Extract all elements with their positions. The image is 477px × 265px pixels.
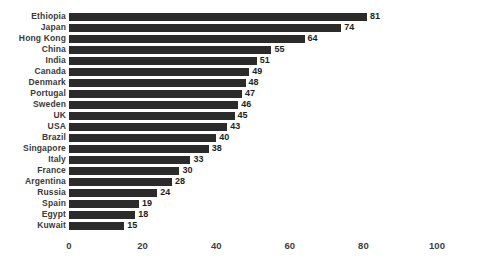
- x-axis-tick-label: 100: [429, 238, 445, 254]
- category-label: Singapore: [23, 143, 66, 154]
- category-label: UK: [53, 110, 66, 121]
- bar: [69, 211, 135, 219]
- bar-row: Brazil40: [0, 132, 477, 143]
- category-label: Portugal: [30, 88, 66, 99]
- bar: [69, 13, 367, 21]
- bar: [69, 90, 242, 98]
- bar-value-label: 30: [182, 165, 192, 176]
- x-axis-tick-label: 40: [211, 238, 222, 254]
- bar: [69, 145, 209, 153]
- bar: [69, 79, 246, 87]
- bar: [69, 200, 139, 208]
- bar-value-label: 48: [249, 77, 259, 88]
- category-label: India: [45, 55, 66, 66]
- bar-row: Egypt18: [0, 209, 477, 220]
- bar-row: Portugal47: [0, 88, 477, 99]
- bar: [69, 134, 216, 142]
- bar: [69, 46, 271, 54]
- category-label: Argentina: [25, 176, 66, 187]
- bar-value-label: 33: [193, 154, 203, 165]
- x-axis-tick-label: 80: [358, 238, 369, 254]
- bar-value-label: 18: [138, 209, 148, 220]
- bar-row: Argentina28: [0, 176, 477, 187]
- bar-value-label: 43: [230, 121, 240, 132]
- bar: [69, 167, 179, 175]
- bar: [69, 24, 341, 32]
- bar-row: Singapore38: [0, 143, 477, 154]
- bar-row: Kuwait15: [0, 220, 477, 231]
- bar-chart: Ethiopia81Japan74Hong Kong64China55India…: [0, 0, 477, 265]
- bar: [69, 57, 257, 65]
- bar-value-label: 47: [245, 88, 255, 99]
- category-label: USA: [48, 121, 66, 132]
- bar-row: USA43: [0, 121, 477, 132]
- category-label: Denmark: [29, 77, 66, 88]
- category-label: Canada: [34, 66, 66, 77]
- bar: [69, 35, 305, 43]
- bar: [69, 101, 238, 109]
- x-axis-tick-label: 0: [66, 238, 71, 254]
- bar: [69, 156, 190, 164]
- bar-value-label: 81: [370, 11, 380, 22]
- bar-value-label: 55: [274, 44, 284, 55]
- category-label: Russia: [37, 187, 66, 198]
- category-label: Brazil: [42, 132, 66, 143]
- x-axis-tick-label: 20: [137, 238, 148, 254]
- bar-row: China55: [0, 44, 477, 55]
- category-label: Japan: [41, 22, 66, 33]
- bar-value-label: 49: [252, 66, 262, 77]
- bar-row: Canada49: [0, 66, 477, 77]
- bar-value-label: 64: [308, 33, 318, 44]
- bar-row: Russia24: [0, 187, 477, 198]
- category-label: Kuwait: [37, 220, 66, 231]
- bar-row: India51: [0, 55, 477, 66]
- bar: [69, 123, 227, 131]
- x-axis: 020406080100: [0, 238, 477, 254]
- bar: [69, 189, 157, 197]
- bar-value-label: 24: [160, 187, 170, 198]
- category-label: Sweden: [33, 99, 66, 110]
- bar-row: Ethiopia81: [0, 11, 477, 22]
- bar-row: Japan74: [0, 22, 477, 33]
- bar-row: Sweden46: [0, 99, 477, 110]
- bar-value-label: 28: [175, 176, 185, 187]
- bar-value-label: 51: [260, 55, 270, 66]
- category-label: China: [42, 44, 66, 55]
- category-label: Egypt: [42, 209, 66, 220]
- bar-row: Italy33: [0, 154, 477, 165]
- bar: [69, 222, 124, 230]
- bar-row: France30: [0, 165, 477, 176]
- bar-value-label: 74: [344, 22, 354, 33]
- bar-row: Hong Kong64: [0, 33, 477, 44]
- bar-value-label: 15: [127, 220, 137, 231]
- bar-value-label: 19: [142, 198, 152, 209]
- bar: [69, 178, 172, 186]
- bar-row: Spain19: [0, 198, 477, 209]
- bar: [69, 112, 235, 120]
- category-label: France: [37, 165, 66, 176]
- bar: [69, 68, 249, 76]
- x-axis-tick-label: 60: [285, 238, 296, 254]
- bar-value-label: 38: [212, 143, 222, 154]
- category-label: Spain: [42, 198, 66, 209]
- bar-value-label: 40: [219, 132, 229, 143]
- bar-row: Denmark48: [0, 77, 477, 88]
- category-label: Hong Kong: [19, 33, 66, 44]
- bar-value-label: 45: [238, 110, 248, 121]
- category-label: Ethiopia: [31, 11, 66, 22]
- bar-row: UK45: [0, 110, 477, 121]
- category-label: Italy: [48, 154, 66, 165]
- bar-value-label: 46: [241, 99, 251, 110]
